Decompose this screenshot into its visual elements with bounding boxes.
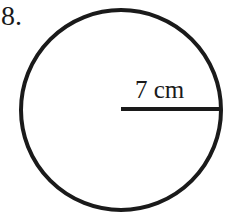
problem-number: 8. — [1, 2, 22, 30]
circle-figure: 7 cm 8. — [0, 0, 227, 220]
circle-diagram: 7 cm — [0, 0, 227, 220]
radius-label: 7 cm — [135, 76, 185, 103]
